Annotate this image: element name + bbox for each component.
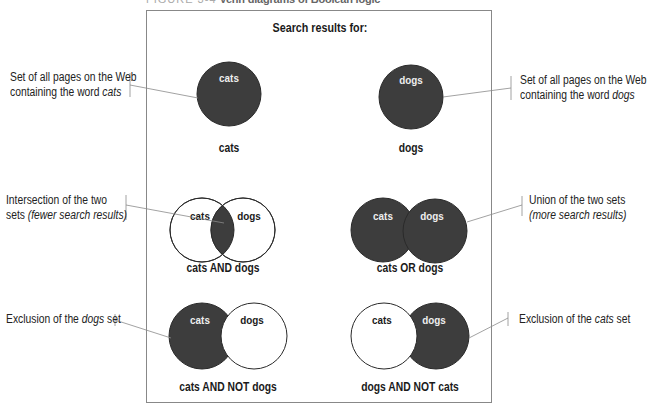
venn-caption-cats-and-not-dogs: cats AND NOT dogs — [179, 380, 277, 393]
annotation-exclusion-cats: Exclusion of the cats set — [519, 312, 630, 327]
venn-caption-dogs-and-not-cats: dogs AND NOT cats — [361, 380, 459, 393]
venn-caption-cats: cats — [219, 141, 240, 154]
venn-dogs: dogs dogs — [379, 65, 443, 154]
venn-cats-or-dogs: cats dogs cats OR dogs — [351, 198, 467, 274]
circle-label-cats: cats — [190, 313, 210, 326]
annotation-union: Union of the two sets (more search resul… — [529, 193, 627, 223]
venn-cats: cats cats — [197, 62, 261, 154]
annotation-intersection: Intersection of the two sets (fewer sear… — [6, 193, 127, 223]
venn-caption-dogs: dogs — [399, 141, 424, 154]
circle-label-cats: cats — [219, 71, 239, 84]
venn-caption-cats-or-dogs: cats OR dogs — [377, 261, 444, 274]
annotation-dogs-set: Set of all pages on the Web containing t… — [520, 73, 647, 103]
header-title: Search results for: — [273, 20, 368, 34]
annotation-exclusion-dogs: Exclusion of the dogs set — [6, 312, 121, 327]
circle-label-dogs: dogs — [420, 209, 444, 222]
circle-label-dogs: dogs — [237, 209, 261, 222]
circle-label-dogs: dogs — [399, 73, 423, 86]
annotation-cats-set: Set of all pages on the Web containing t… — [10, 70, 137, 100]
venn-cats-and-dogs: cats dogs cats AND dogs — [170, 198, 275, 274]
venn-caption-cats-and-dogs: cats AND dogs — [187, 261, 260, 274]
venn-cats-and-not-dogs: cats dogs cats AND NOT dogs — [169, 303, 287, 393]
circle-label-dogs: dogs — [240, 313, 264, 326]
leader-lines — [115, 73, 522, 338]
circle-label-cats: cats — [372, 313, 392, 326]
venn-dogs-and-not-cats: cats dogs dogs AND NOT cats — [351, 303, 469, 393]
circle-label-dogs: dogs — [422, 313, 446, 326]
circle-label-cats: cats — [373, 209, 393, 222]
